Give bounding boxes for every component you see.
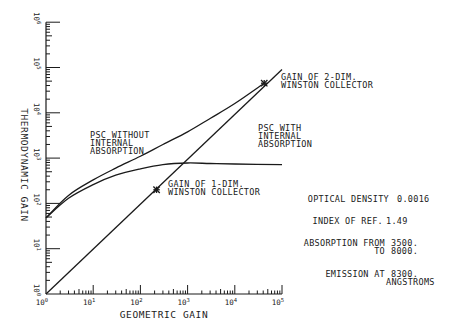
optical-density-label: OPTICAL DENSITY — [308, 194, 389, 204]
annotation-line: ABSORPTION — [90, 146, 144, 156]
annotation-line: ABSORPTION — [258, 139, 312, 149]
y-tick-label: 103 — [32, 148, 42, 160]
index-value: 1.49 — [386, 216, 408, 226]
x-tick-label: 101 — [83, 297, 95, 307]
chart: 100101102103104105100101102103104105106 … — [0, 0, 457, 334]
y-tick-label: 104 — [32, 103, 42, 116]
annotation-line: WINSTON COLLECTOR — [281, 80, 374, 90]
absorption-to-label: TO — [374, 246, 385, 256]
axes — [46, 22, 282, 294]
optical-density-value: 0.0016 — [397, 194, 430, 204]
index-label: INDEX OF REF. — [313, 216, 383, 226]
axis-ticks: 100101102103104105100101102103104105106 — [32, 12, 284, 307]
emission-label: EMISSION AT — [325, 269, 385, 279]
x-tick-label: 105 — [272, 297, 284, 307]
absorption-label: ABSORPTION FROM — [304, 238, 385, 248]
annotation-2dim: GAIN OF 2-DIM. WINSTON COLLECTOR — [281, 72, 374, 90]
absorption-to: 8000. — [391, 246, 418, 256]
series-lines — [46, 70, 282, 294]
y-tick-label: 101 — [32, 239, 42, 251]
y-tick-label: 105 — [32, 57, 42, 69]
annotation-line: WINSTON COLLECTOR — [168, 187, 261, 197]
x-tick-label: 102 — [130, 297, 142, 307]
y-tick-label: 106 — [32, 12, 42, 24]
y-tick-label: 100 — [32, 284, 42, 296]
parameters-block: OPTICAL DENSITY 0.0016 INDEX OF REF. 1.4… — [304, 194, 435, 287]
x-tick-label: 103 — [177, 297, 189, 307]
x-tick-label: 104 — [225, 297, 238, 307]
emission-unit: ANGSTROMS — [386, 277, 435, 287]
annotation-psc-without: PSC WITHOUT INTERNAL ABSORPTION — [90, 130, 150, 156]
psc-without-absorption-curve — [46, 83, 264, 218]
x-tick-label: 100 — [36, 297, 48, 307]
y-tick-label: 102 — [32, 193, 42, 205]
star-marker-1dim — [153, 187, 159, 193]
x-axis-title: GEOMETRIC GAIN — [120, 309, 208, 320]
annotation-1dim: GAIN OF 1-DIM. WINSTON COLLECTOR — [168, 179, 261, 197]
winston-gain-line — [46, 70, 282, 294]
annotation-psc-with: PSC WITH INTERNAL ABSORPTION — [258, 123, 312, 149]
star-marker-2dim — [261, 80, 267, 86]
y-axis-title: THERMODYNAMIC GAIN — [19, 108, 30, 222]
